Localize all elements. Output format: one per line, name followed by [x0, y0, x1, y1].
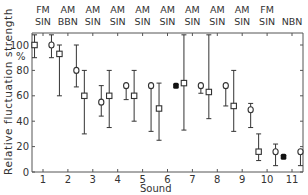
top-label-line1: AM: [210, 4, 225, 15]
top-label-line1: AM: [160, 4, 175, 15]
data-point-squares: [107, 70, 112, 127]
x-tick-label: 7: [189, 174, 195, 185]
x-axis-ticks: 1234567891011: [40, 33, 299, 185]
top-label-line1: AM: [185, 4, 200, 15]
top-label-line2: SIN: [234, 16, 250, 27]
data-point-circles: [99, 86, 104, 116]
top-label-line2: SIN: [35, 16, 51, 27]
top-label-line2: SIN: [160, 16, 176, 27]
circle-marker: [248, 107, 253, 113]
top-label-line1: AM: [85, 4, 100, 15]
x-tick-label: 9: [239, 174, 245, 185]
y-tick-label: 60: [16, 90, 29, 101]
top-label-line1: AM: [235, 4, 250, 15]
circle-marker: [124, 83, 129, 89]
top-label-line2: SIN: [110, 16, 126, 27]
circle-marker: [49, 42, 54, 48]
top-label-line1: AM: [110, 4, 125, 15]
data-point-circles: [74, 45, 79, 87]
data-point-circles: [223, 83, 228, 106]
data-point-circles: [124, 83, 129, 100]
data-point-squares: [256, 134, 261, 161]
data-point-squares: [57, 45, 62, 96]
y-tick-label: 0: [23, 167, 29, 178]
square-marker: [256, 149, 261, 154]
x-tick-label: 10: [261, 174, 274, 185]
top-label-line2: BBN: [58, 16, 78, 27]
square-marker: [57, 51, 62, 56]
square-marker: [206, 89, 211, 94]
square-marker: [32, 42, 37, 47]
data-point-filled-left: [281, 154, 287, 160]
top-label-line2: SIN: [184, 16, 200, 27]
filled-marker: [281, 154, 287, 160]
fluctuation-strength-chart: FMSINAMBBNAMSINAMSINAMSINAMSINAMSINAMSIN…: [0, 0, 308, 195]
x-tick-label: 8: [214, 174, 220, 185]
top-label-line2: SIN: [135, 16, 151, 27]
top-label-line2: SIN: [259, 16, 275, 27]
x-tick-label: 1: [40, 174, 46, 185]
square-marker: [82, 93, 87, 98]
square-marker: [131, 93, 136, 98]
x-tick-label: 4: [115, 174, 121, 185]
circle-marker: [198, 83, 203, 89]
y-tick-label: 80: [16, 65, 29, 76]
square-marker: [181, 80, 186, 85]
square-marker: [107, 93, 112, 98]
data-point-filled: [173, 83, 179, 89]
top-labels: FMSINAMBBNAMSINAMSINAMSINAMSINAMSINAMSIN…: [35, 4, 302, 27]
data-point-circles: [298, 149, 303, 166]
data-point-squares: [156, 83, 161, 140]
x-tick-label: 3: [90, 174, 96, 185]
top-label-line1: AM: [61, 4, 76, 15]
circle-marker: [148, 83, 153, 89]
top-label-line1: FM: [260, 4, 274, 15]
data-point-circles: [273, 144, 278, 166]
y-tick-label: 20: [16, 141, 29, 152]
data-point-squares: [32, 35, 37, 58]
axes: [32, 33, 303, 172]
x-tick-label: 11: [286, 174, 299, 185]
y-axis-unit: %: [16, 51, 26, 62]
data-points: [32, 35, 303, 166]
top-label-line1: AM: [135, 4, 150, 15]
data-point-squares: [131, 70, 136, 121]
circle-marker: [99, 99, 104, 105]
top-label-line1: FM: [36, 4, 50, 15]
data-point-squares: [206, 35, 211, 119]
data-point-squares: [82, 70, 87, 133]
y-axis-label: Relative fluctuation strength: [2, 8, 14, 175]
square-marker: [156, 106, 161, 111]
data-point-circles: [198, 83, 203, 94]
square-marker: [231, 103, 236, 108]
circle-marker: [74, 67, 79, 73]
x-tick-label: 2: [65, 174, 71, 185]
data-point-squares: [181, 35, 186, 130]
data-point-circles: [148, 83, 153, 132]
y-tick-label: 40: [16, 116, 29, 127]
circle-marker: [298, 149, 303, 155]
top-label-line2: NBN: [282, 16, 303, 27]
circle-marker: [273, 149, 278, 155]
top-label-line2: SIN: [85, 16, 101, 27]
data-point-circles: [248, 103, 253, 127]
circle-marker: [223, 83, 228, 89]
data-point-circles: [49, 35, 54, 58]
filled-marker: [173, 83, 179, 89]
data-point-squares: [231, 70, 236, 131]
top-label-line2: SIN: [209, 16, 225, 27]
x-axis-label: Sound: [140, 183, 172, 194]
